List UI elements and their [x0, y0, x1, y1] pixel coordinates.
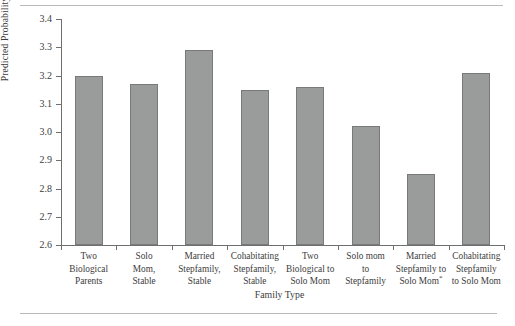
y-axis-tick-label: 3.1: [40, 98, 53, 109]
y-axis-title: Predicted Probability: [0, 0, 16, 104]
y-axis-tick-label: 3.2: [40, 70, 53, 81]
x-axis-category-label-line: to Solo Mom: [441, 275, 511, 288]
figure: Predicted Probability 2.62.72.82.93.03.1…: [0, 0, 515, 326]
x-axis-title-text: Family Type: [255, 289, 304, 300]
bar: [75, 76, 103, 246]
x-axis-category-label-line: Stepfamily: [441, 263, 511, 276]
top-rule: [20, 5, 503, 6]
bar: [185, 50, 213, 245]
x-axis-category-labels: TwoBiologicalParentsSoloMom,StableMarrie…: [61, 250, 504, 292]
x-axis-title: Family Type: [0, 289, 515, 300]
y-axis-tick-label: 3.4: [40, 13, 53, 24]
bar: [296, 87, 324, 245]
x-axis-category-label-line: Cohabitating: [441, 250, 511, 263]
x-axis-category-label: CohabitatingStepfamilyto Solo Mom: [441, 250, 511, 288]
bar-series: [61, 19, 504, 245]
y-axis-tick-label: 2.9: [40, 154, 53, 165]
bar: [352, 126, 380, 245]
y-axis-tick-label: 2.8: [40, 183, 53, 194]
bar: [462, 73, 490, 245]
bar: [241, 90, 269, 245]
bottom-rule: [20, 313, 497, 314]
y-axis-tick-label: 2.7: [40, 211, 53, 222]
y-axis-tick-label: 2.6: [40, 239, 53, 250]
y-axis-tick-label: 3.0: [40, 126, 53, 137]
plot-area: 2.62.72.82.93.03.13.23.33.4: [61, 19, 504, 245]
y-axis-tick-label: 3.3: [40, 41, 53, 52]
bar: [130, 84, 158, 245]
bar: [407, 174, 435, 245]
